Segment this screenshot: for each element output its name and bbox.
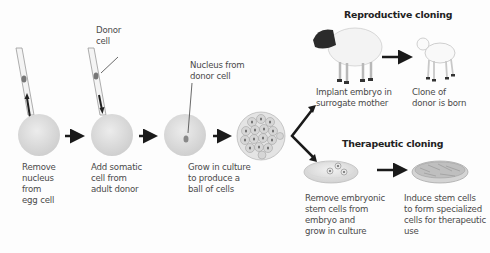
clone-born-label: Clone of donor is born <box>412 87 466 109</box>
egg-cell-icon <box>91 114 133 156</box>
donor-cell-callout: Donor cell <box>96 25 121 47</box>
step-remove-nucleus-label: Remove nucleus from egg cell <box>22 162 56 206</box>
egg-cell-icon <box>18 114 60 156</box>
donor-cell-icon <box>94 73 99 80</box>
lamb-clone-icon <box>417 38 455 82</box>
implant-embryo-label: Implant embryo in surrogate mother <box>316 87 392 109</box>
petri-dish-specialized-cells-icon <box>412 161 468 183</box>
donor-nucleus-callout: Nucleus from donor cell <box>190 60 245 82</box>
reproductive-cloning-title: Reproductive cloning <box>344 9 452 20</box>
egg-cell-with-donor-nucleus <box>164 83 206 156</box>
nucleus-icon <box>184 136 189 143</box>
step-grow-culture-label: Grow in culture to produce a ball of cel… <box>188 162 251 195</box>
egg-cell-add-somatic <box>88 48 133 156</box>
egg-cell-remove-nucleus <box>16 48 60 156</box>
therapeutic-cloning-title: Therapeutic cloning <box>342 138 443 149</box>
branch-arrows <box>292 105 317 162</box>
petri-dish-embryo-icon <box>304 161 358 183</box>
ball-of-cells-icon <box>237 112 285 160</box>
step-add-somatic-label: Add somatic cell from adult donor <box>91 162 142 195</box>
induce-stem-cells-label: Induce stem cells to form specialized ce… <box>404 193 486 237</box>
surrogate-sheep-icon <box>313 28 382 84</box>
remove-stem-cells-label: Remove embryonic stem cells from embryo … <box>305 193 385 237</box>
